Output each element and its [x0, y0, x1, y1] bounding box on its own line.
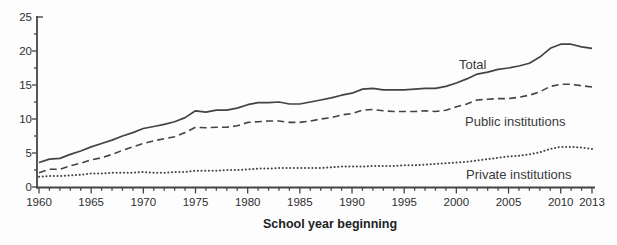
chart-page: 0510152025196019651970197519801985199019… [0, 0, 617, 245]
y-tick-label-20: 20 [19, 45, 32, 57]
y-tick-label-0: 0 [26, 181, 32, 193]
x-tick-label-1970: 1970 [131, 196, 157, 208]
x-axis-title: School year beginning [263, 217, 397, 231]
x-tick-label-1980: 1980 [235, 196, 261, 208]
total-series-label: Total [459, 57, 487, 72]
x-tick-label-1975: 1975 [183, 196, 209, 208]
y-tick-label-25: 25 [19, 11, 32, 23]
public-institutions-series-label: Public institutions [465, 114, 566, 129]
x-tick-label-1995: 1995 [391, 196, 417, 208]
x-tick-label-1960: 1960 [26, 196, 52, 208]
y-tick-label-5: 5 [26, 147, 32, 159]
x-tick-label-2010: 2010 [548, 196, 574, 208]
series-line-total [39, 44, 592, 162]
y-tick-label-10: 10 [19, 113, 32, 125]
x-tick-label-2000: 2000 [444, 196, 470, 208]
enrollment-line-chart: 0510152025196019651970197519801985199019… [0, 0, 617, 245]
y-tick-label-15: 15 [19, 79, 32, 91]
private-institutions-series-label: Private institutions [466, 167, 572, 182]
x-tick-label-2013: 2013 [579, 196, 605, 208]
x-tick-label-2005: 2005 [496, 196, 522, 208]
x-tick-label-1965: 1965 [78, 196, 104, 208]
x-tick-label-1990: 1990 [339, 196, 365, 208]
x-tick-label-1985: 1985 [287, 196, 313, 208]
